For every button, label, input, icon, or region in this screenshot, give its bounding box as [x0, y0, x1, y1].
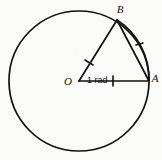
- label-point-b: B: [117, 3, 124, 15]
- label-angle-one-radian: 1 rad: [87, 75, 108, 85]
- radius-ob-segment: [79, 20, 117, 81]
- label-center-o: O: [64, 75, 72, 87]
- label-point-a: A: [151, 72, 159, 84]
- circle-diagram-svg: O A B 1 rad: [0, 0, 162, 160]
- radian-circle-figure: O A B 1 rad: [0, 0, 162, 160]
- chord-ba-segment: [117, 20, 149, 81]
